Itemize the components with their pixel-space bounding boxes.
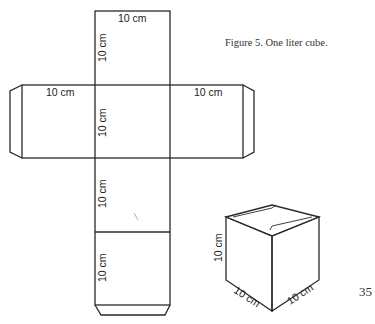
assembled-cube: 10 cm 10 cm 10 cm [212, 205, 319, 311]
right-glue-tab [243, 85, 254, 158]
page-number: 35 [359, 284, 372, 299]
cube-height-label: 10 cm [212, 233, 224, 262]
cube-top-tab-back [233, 205, 276, 217]
cube-top-face [226, 205, 319, 236]
top-face-height-label: 10 cm [96, 33, 108, 62]
left-face-label: 10 cm [46, 86, 75, 98]
cube-left-depth-label: 10 cm [232, 284, 263, 310]
one-liter-cube-figure: 10 cm 10 cm 10 cm 10 cm 10 cm 10 cm 10 c… [0, 0, 375, 324]
center-face-label: 10 cm [96, 108, 108, 137]
bottom-face-label: 10 cm [96, 253, 108, 282]
figure-caption: Figure 5. One liter cube. [225, 37, 328, 48]
right-face-label: 10 cm [194, 86, 223, 98]
lower-face-label: 10 cm [96, 179, 108, 208]
cube-net: 10 cm 10 cm 10 cm 10 cm 10 cm 10 cm 10 c… [10, 11, 254, 315]
cube-right-depth-label: 10 cm [285, 281, 316, 307]
bottom-glue-tab [95, 305, 170, 315]
top-face-width-label: 10 cm [118, 12, 147, 24]
left-glue-tab [10, 85, 22, 158]
stray-mark [134, 213, 138, 220]
